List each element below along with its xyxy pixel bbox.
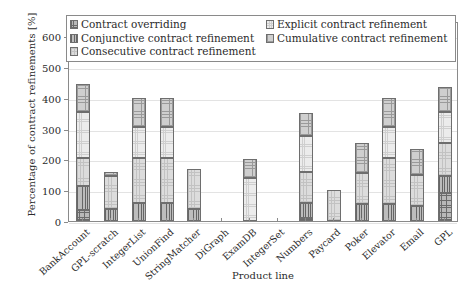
x-tick-label: Email <box>398 226 426 253</box>
bar-segment <box>104 172 118 177</box>
bar-segment <box>299 218 313 221</box>
bar-segment <box>299 136 313 171</box>
bar-segment <box>438 112 452 143</box>
bar-segment <box>243 178 257 221</box>
y-tick-label: 400 <box>42 93 61 104</box>
bar-segment <box>438 87 452 112</box>
bar-segment <box>187 209 201 221</box>
x-tick-mark <box>193 218 194 222</box>
bar-segment <box>382 127 396 158</box>
bar-segment <box>355 143 369 173</box>
bar-segment <box>243 159 257 177</box>
legend-item-label: Consecutive contract refinement <box>81 45 256 59</box>
chart-legend: Contract overriding Explicit contract re… <box>66 15 456 62</box>
y-axis-ticks: 0100200300400500600 <box>0 22 68 222</box>
x-tick-mark <box>277 218 278 222</box>
legend-item-cumulative-contract-refinement: Cumulative contract refinement <box>266 32 447 46</box>
legend-item-label: Conjunctive contract refinement <box>81 32 254 46</box>
bar-segment <box>438 193 452 221</box>
bar-segment <box>76 210 90 221</box>
bar-segment <box>132 158 146 203</box>
y-tick-label: 600 <box>42 32 61 43</box>
legend-item-contract-overriding: Contract overriding <box>70 18 266 32</box>
x-tick-mark <box>110 218 111 222</box>
legend-item-conjunctive-contract-refinement: Conjunctive contract refinement <box>70 32 266 46</box>
bar-segment <box>299 203 313 218</box>
bar-segment <box>132 98 146 127</box>
bar-segment <box>382 158 396 204</box>
legend-swatch-icon <box>70 47 78 56</box>
x-tick-mark <box>333 218 334 222</box>
x-tick-mark <box>221 218 222 222</box>
bar-segment <box>160 203 174 221</box>
bar-segment <box>160 158 174 203</box>
x-tick-mark <box>82 218 83 222</box>
bar-segment <box>299 172 313 203</box>
y-tick-label: 100 <box>42 186 61 197</box>
bar-segment <box>76 186 90 211</box>
bar-segment <box>355 173 369 204</box>
bar-segment <box>132 127 146 158</box>
y-tick-label: 500 <box>42 63 61 74</box>
bar-segment <box>76 112 90 158</box>
x-tick-mark <box>388 218 389 222</box>
legend-row: Conjunctive contract refinement Cumulati… <box>70 32 452 46</box>
chart-figure: Percentage of contract refinements [%] 0… <box>0 0 472 292</box>
bar-segment <box>327 190 341 221</box>
legend-item-label: Explicit contract refinement <box>277 18 427 32</box>
x-tick-mark <box>138 218 139 222</box>
x-tick-mark <box>361 218 362 222</box>
bar-segment <box>438 176 452 193</box>
bar-segment <box>410 175 424 206</box>
x-tick-label: GPL <box>432 226 454 248</box>
legend-item-consecutive-contract-refinement: Consecutive contract refinement <box>70 45 266 59</box>
bar-segment <box>299 113 313 136</box>
legend-swatch-icon <box>266 20 274 29</box>
bar-segment <box>132 203 146 221</box>
bar-segment <box>410 206 424 221</box>
bar-segment <box>104 209 118 221</box>
legend-item-label: Cumulative contract refinement <box>277 32 447 46</box>
bar-segment <box>438 143 452 177</box>
legend-item-label: Contract overriding <box>81 18 186 32</box>
legend-item-explicit-contract-refinement: Explicit contract refinement <box>266 18 427 32</box>
x-tick-mark <box>444 218 445 222</box>
bar-segment <box>160 127 174 158</box>
legend-swatch-icon <box>70 20 78 29</box>
legend-row: Contract overriding Explicit contract re… <box>70 18 452 32</box>
x-tick-mark <box>416 218 417 222</box>
bar-segment <box>160 98 174 127</box>
y-tick-label: 0 <box>55 217 61 228</box>
y-tick-label: 200 <box>42 155 61 166</box>
y-tick-label: 300 <box>42 124 61 135</box>
bar-segment <box>382 204 396 221</box>
bar-segment <box>382 98 396 127</box>
bar-segment <box>76 84 90 112</box>
x-axis-ticks: BankAccountGPL-scratchIntegerListUnionFi… <box>68 222 458 272</box>
legend-swatch-icon <box>70 34 78 43</box>
bar-segment <box>104 176 118 208</box>
x-tick-mark <box>305 218 306 222</box>
x-axis-label: Product line <box>68 270 458 281</box>
bar-segment <box>187 169 201 209</box>
bar-segment <box>355 204 369 221</box>
x-tick-mark <box>166 218 167 222</box>
bar-segment <box>76 158 90 186</box>
bar-segment <box>410 149 424 175</box>
x-tick-mark <box>249 218 250 222</box>
legend-row: Consecutive contract refinement <box>70 45 452 59</box>
legend-swatch-icon <box>266 34 274 43</box>
